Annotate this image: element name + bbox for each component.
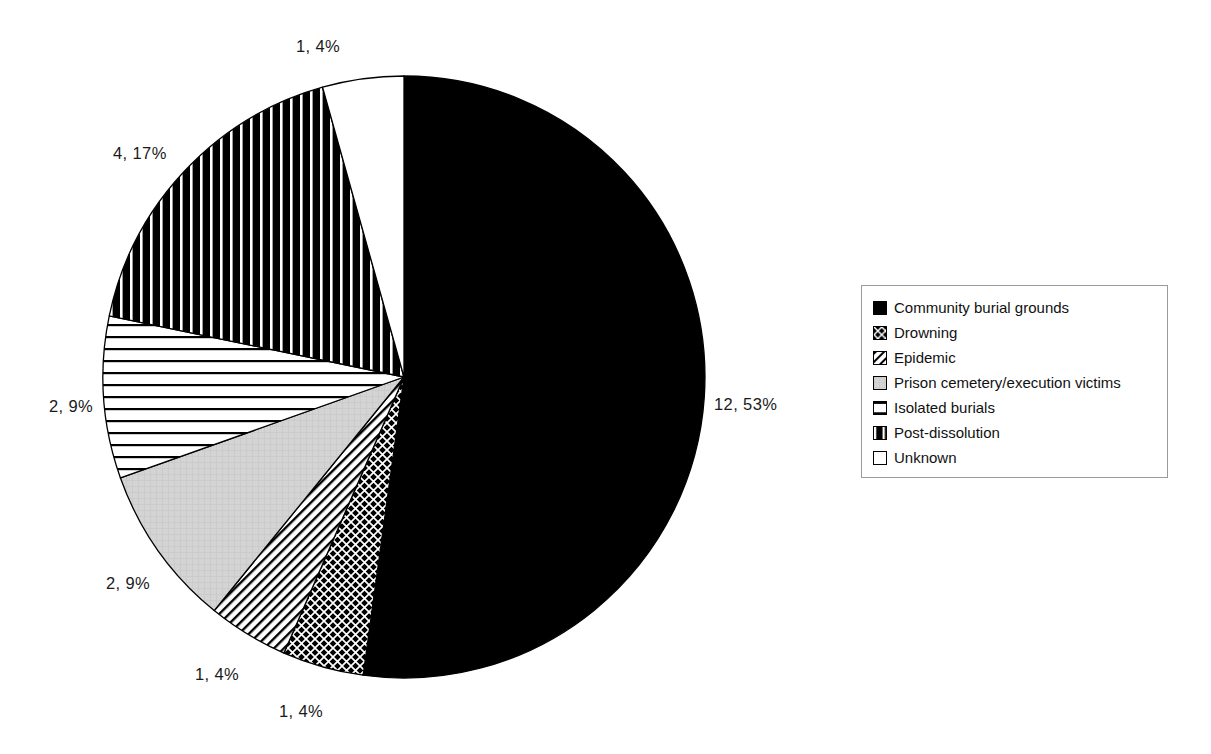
legend-label-epidemic: Epidemic xyxy=(894,350,956,365)
legend-label-community-burial-grounds: Community burial grounds xyxy=(894,300,1069,315)
pie-chart-area: 1, 4% 4, 17% 2, 9% 2, 9% 1, 4% 1, 4% 12,… xyxy=(0,0,820,754)
dense-crosshatch-swatch-icon xyxy=(873,326,887,340)
pie-chart-page: 1, 4% 4, 17% 2, 9% 2, 9% 1, 4% 1, 4% 12,… xyxy=(0,0,1211,754)
legend-item-community-burial-grounds: Community burial grounds xyxy=(873,295,1167,320)
slice-label-community-burial-grounds: 12, 53% xyxy=(714,396,777,413)
legend-item-unknown: Unknown xyxy=(873,445,1167,470)
slice-label-isolated-burials: 2, 9% xyxy=(49,398,93,415)
legend-label-prison-cemetery: Prison cemetery/execution victims xyxy=(894,375,1121,390)
legend-label-post-dissolution: Post-dissolution xyxy=(894,425,1000,440)
pie-slices-group xyxy=(103,76,705,678)
legend-item-isolated-burials: Isolated burials xyxy=(873,395,1167,420)
diagonal-stripes-swatch-icon xyxy=(873,351,887,365)
horizontal-stripes-swatch-icon xyxy=(873,401,887,415)
legend-label-isolated-burials: Isolated burials xyxy=(894,400,995,415)
chart-legend: Community burial grounds Drowning Epidem… xyxy=(861,285,1168,478)
light-gray-swatch-icon xyxy=(873,376,887,390)
legend-item-post-dissolution: Post-dissolution xyxy=(873,420,1167,445)
solid-black-swatch-icon xyxy=(873,301,887,315)
legend-item-drowning: Drowning xyxy=(873,320,1167,345)
white-swatch-icon xyxy=(873,451,887,465)
legend-item-prison-cemetery: Prison cemetery/execution victims xyxy=(873,370,1167,395)
slice-label-post-dissolution: 4, 17% xyxy=(113,145,167,162)
legend-label-drowning: Drowning xyxy=(894,325,957,340)
pie-chart-svg xyxy=(0,0,820,754)
slice-label-epidemic: 1, 4% xyxy=(195,666,239,683)
vertical-stripes-swatch-icon xyxy=(873,426,887,440)
legend-label-unknown: Unknown xyxy=(894,450,957,465)
slice-label-drowning: 1, 4% xyxy=(279,703,323,720)
slice-label-prison-cemetery: 2, 9% xyxy=(106,575,150,592)
slice-label-unknown: 1, 4% xyxy=(296,38,340,55)
legend-item-epidemic: Epidemic xyxy=(873,345,1167,370)
pie-slice-community-burial-grounds xyxy=(363,76,705,678)
